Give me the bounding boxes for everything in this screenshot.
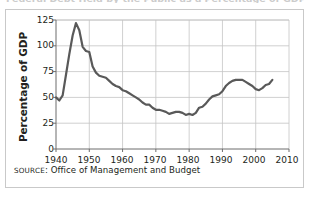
figure-frame: Percentage of GDP 125 100 75 50 25 0 194… [5,9,304,188]
gridlines [56,20,289,149]
source-note: SOURCE: Office of Management and Budget [14,165,200,175]
figure-title-cropped: Federal Debt Held by the Public as a Per… [0,0,318,3]
line-chart-svg [6,10,305,159]
source-prefix: SOURCE [14,166,45,175]
data-series-line [56,23,272,115]
plot-area: Percentage of GDP 125 100 75 50 25 0 194… [6,10,305,159]
source-text: Office of Management and Budget [51,165,201,175]
figure-title-text: Federal Debt Held by the Public as a Per… [0,0,318,3]
